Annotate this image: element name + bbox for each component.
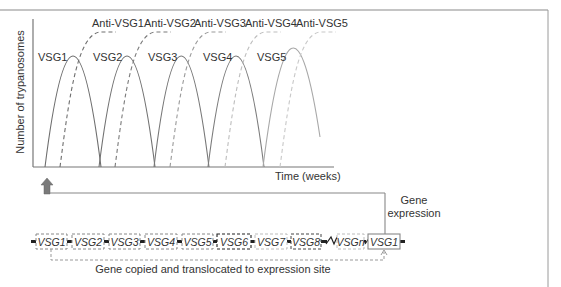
y-axis-label: Number of trypanosomes: [14, 30, 26, 154]
gene-label: VSG7: [257, 236, 286, 248]
gene-expression-label-line1: Gene: [401, 194, 428, 206]
vsg5-wave: [263, 48, 320, 167]
anti-vsg-labels: Anti-VSG1 Anti-VSG2 Anti-VSG3 Anti-VSG4 …: [92, 17, 348, 29]
gene-label: VSG4: [147, 236, 175, 248]
translocation-path: [51, 249, 384, 260]
anti-vsg2-label: Anti-VSG2: [144, 17, 196, 29]
vsg2-label: VSG2: [93, 51, 122, 63]
linker: [67, 240, 72, 243]
translocation-label: Gene copied and translocated to expressi…: [95, 263, 330, 275]
linker: [213, 240, 217, 243]
linker: [140, 240, 145, 243]
break-symbol-icon: [326, 237, 337, 244]
linker: [321, 240, 327, 243]
linker: [400, 240, 405, 243]
vsg5-label: VSG5: [257, 51, 286, 63]
vsg1-label: VSG1: [38, 51, 67, 63]
anti-vsg1-label: Anti-VSG1: [92, 17, 144, 29]
vsg-antigenic-variation-diagram: Number of trypanosomes Time (weeks) VSG1…: [0, 0, 561, 287]
vsg3-wave: [154, 56, 209, 167]
gene-label: VSG1: [37, 236, 65, 248]
vsg-waves: [45, 48, 320, 167]
anti-vsg5-label: Anti-VSG5: [296, 17, 348, 29]
gene-label: VSG2: [74, 236, 102, 248]
vsg2-wave: [99, 56, 155, 167]
expression-arrow: [41, 178, 385, 234]
gene-label: VSG5: [183, 236, 211, 248]
linker: [177, 240, 182, 243]
gene-expression-label-line2: expression: [387, 207, 440, 219]
gene-label: VSG8: [292, 236, 320, 248]
x-axis-label: Time (weeks): [275, 170, 341, 182]
anti-vsg4-label: Anti-VSG4: [245, 17, 297, 29]
vsg4-wave: [208, 56, 264, 167]
linker: [104, 240, 109, 243]
gene-label: VSGn: [336, 236, 364, 248]
gene-label: VSG6: [220, 236, 248, 248]
up-arrow-icon: [41, 178, 53, 194]
anti-vsg5-curve: [280, 32, 336, 167]
linker: [287, 240, 291, 243]
vsg1-wave: [45, 56, 101, 167]
genome-row: VSG1 VSG2 VSG3 VSG4 VSG5 VSG6 VSG7 VSG8 …: [31, 234, 405, 275]
gene-label: VSG1: [370, 236, 398, 248]
anti-vsg3-label: Anti-VSG3: [194, 17, 246, 29]
gene-label: VSG3: [110, 236, 138, 248]
linker: [31, 240, 36, 243]
linker: [251, 240, 255, 243]
vsg4-label: VSG4: [203, 51, 232, 63]
vsg3-label: VSG3: [148, 51, 177, 63]
